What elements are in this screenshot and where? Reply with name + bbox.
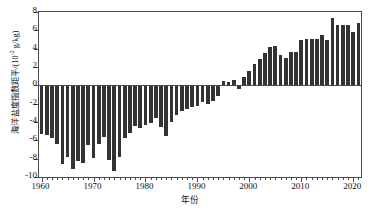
y-axis-tick-label: 6 [0, 24, 37, 33]
bar [253, 64, 257, 85]
x-axis-minor-tick [114, 177, 115, 180]
x-axis-minor-tick [187, 177, 188, 180]
x-axis-minor-tick [286, 177, 287, 180]
y-axis-tick-label: -8 [0, 153, 37, 162]
bar [216, 85, 220, 96]
bar [102, 85, 106, 136]
x-axis-minor-tick [104, 177, 105, 180]
bar [112, 85, 116, 171]
x-axis-minor-tick [130, 177, 131, 180]
y-axis-tick-label: -10 [0, 171, 37, 180]
bar [289, 52, 293, 85]
bar [55, 85, 59, 144]
x-axis-minor-tick [140, 177, 141, 180]
bar [61, 85, 65, 164]
bar [310, 39, 314, 86]
bar-series [39, 12, 361, 177]
x-axis-minor-tick [312, 177, 313, 180]
x-axis-minor-tick [291, 177, 292, 180]
x-axis-minor-tick [203, 177, 204, 180]
bar [107, 85, 111, 159]
x-axis-minor-tick [348, 177, 349, 180]
x-axis-minor-tick [358, 177, 359, 180]
bar [325, 40, 329, 85]
bar [92, 85, 96, 157]
x-axis-minor-tick [68, 177, 69, 180]
x-axis-tick-label: 1960 [21, 181, 61, 191]
x-axis-minor-tick [306, 177, 307, 180]
bar [118, 85, 122, 157]
x-axis-tick-label: 1990 [176, 181, 216, 191]
bar [128, 85, 132, 133]
bar [170, 85, 174, 122]
bar [180, 85, 184, 111]
bar [294, 52, 298, 85]
bar [159, 85, 163, 127]
x-axis-minor-tick [57, 177, 58, 180]
x-axis-minor-tick [52, 177, 53, 180]
x-axis-tick-label: 2020 [332, 181, 372, 191]
bar [196, 85, 200, 106]
bar [81, 85, 85, 163]
x-axis-minor-tick [156, 177, 157, 180]
x-axis-minor-tick [161, 177, 162, 180]
y-axis-tick-label: -4 [0, 116, 37, 125]
y-axis-tick-label: -2 [0, 98, 37, 107]
y-axis-tick-label: 4 [0, 43, 37, 52]
x-axis-minor-tick [182, 177, 183, 180]
bar [149, 85, 153, 123]
x-axis-minor-tick [255, 177, 256, 180]
bar [305, 39, 309, 86]
bar [331, 18, 335, 86]
x-axis-minor-tick [135, 177, 136, 180]
bar [336, 25, 340, 86]
bar [242, 77, 246, 85]
x-axis-minor-tick [343, 177, 344, 180]
x-axis-minor-tick [338, 177, 339, 180]
bar [76, 85, 80, 161]
bar [144, 85, 148, 124]
x-axis-minor-tick [223, 177, 224, 180]
x-axis-minor-tick [260, 177, 261, 180]
x-axis-minor-tick [166, 177, 167, 180]
y-axis-tick-label: 0 [0, 79, 37, 88]
bar [71, 85, 75, 168]
bar [273, 46, 277, 85]
x-axis-minor-tick [239, 177, 240, 180]
bar [86, 85, 90, 145]
bar [154, 85, 158, 118]
x-axis-minor-tick [270, 177, 271, 180]
bar [346, 25, 350, 86]
bar [299, 40, 303, 85]
y-axis-tick-label: 2 [0, 61, 37, 70]
bar [351, 32, 355, 85]
x-axis-minor-tick [120, 177, 121, 180]
bar [185, 85, 189, 109]
x-axis-tick-label: 2000 [228, 181, 268, 191]
bar [211, 85, 215, 101]
x-axis-minor-tick [296, 177, 297, 180]
plot-area [38, 11, 362, 178]
x-axis-minor-tick [78, 177, 79, 180]
x-axis-minor-tick [213, 177, 214, 180]
bar [133, 85, 137, 125]
zero-baseline [39, 85, 361, 86]
bar [284, 58, 288, 86]
x-axis-minor-tick [327, 177, 328, 180]
x-axis-minor-tick [171, 177, 172, 180]
x-axis-tick-label: 1980 [124, 181, 164, 191]
x-axis-tick-label: 1970 [73, 181, 113, 191]
bar [138, 85, 142, 128]
y-axis-tick-label: -6 [0, 134, 37, 143]
bar [201, 85, 205, 102]
x-axis-minor-tick [244, 177, 245, 180]
x-axis-minor-tick [275, 177, 276, 180]
bar [175, 85, 179, 114]
bar [66, 85, 70, 157]
bar [45, 85, 49, 135]
x-axis-tick-label: 2010 [280, 181, 320, 191]
x-axis-minor-tick [73, 177, 74, 180]
x-axis-title: 年份 [0, 193, 380, 205]
bar [164, 85, 168, 135]
x-axis-minor-tick [109, 177, 110, 180]
